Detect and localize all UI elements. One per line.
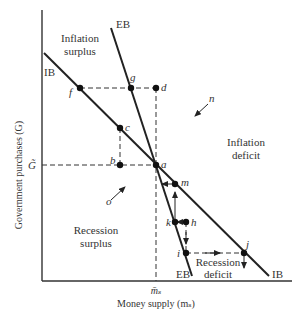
point-a <box>153 162 159 168</box>
region-inflation-surplus-1: Inflation <box>61 32 99 44</box>
diagram-canvas: a b c d f g m k h i j n o IB EB EB IB In… <box>0 0 306 317</box>
x-axis-label: Money supply (mₛ) <box>117 298 195 310</box>
ib-label-bottom: IB <box>272 268 283 280</box>
point-f <box>77 85 83 91</box>
region-inflation-deficit-2: deficit <box>232 149 260 161</box>
region-recession-surplus-2: surplus <box>80 237 112 249</box>
label-j: j <box>244 238 249 250</box>
point-h <box>183 219 189 225</box>
region-inflation-surplus-2: surplus <box>64 45 96 57</box>
region-recession-deficit-2: deficit <box>204 268 232 280</box>
eb-label-bottom: EB <box>176 268 190 280</box>
y-tick-g-bar: G̃ <box>28 159 36 171</box>
eb-label-top: EB <box>116 18 130 30</box>
point-b <box>117 162 123 168</box>
label-a: a <box>161 158 167 170</box>
region-recession-surplus-1: Recession <box>74 224 119 236</box>
point-d <box>153 85 159 91</box>
label-d: d <box>161 81 167 93</box>
label-g: g <box>130 71 136 83</box>
label-k: k <box>166 216 172 228</box>
eb-curve <box>111 28 192 276</box>
ib-label-top: IB <box>44 66 55 78</box>
y-axis-label: Government purchases (G) <box>13 121 25 229</box>
point-j <box>241 250 247 256</box>
point-g <box>128 85 134 91</box>
x-tick-m-bar: m̄ₛ <box>151 285 162 296</box>
o-arrow <box>111 187 125 200</box>
label-b: b <box>110 154 116 166</box>
n-arrow <box>195 104 208 116</box>
label-h: h <box>191 216 197 228</box>
region-recession-deficit-1: Recession <box>196 256 241 268</box>
label-f: f <box>69 86 74 98</box>
point-c <box>117 125 123 131</box>
label-n: n <box>209 92 215 104</box>
label-o: o <box>106 195 112 207</box>
region-inflation-deficit-1: Inflation <box>227 136 265 148</box>
point-m <box>172 181 178 187</box>
label-m: m <box>181 176 189 188</box>
label-i: i <box>177 247 180 259</box>
point-k <box>172 219 178 225</box>
point-i <box>183 250 189 256</box>
label-c: c <box>125 121 130 133</box>
